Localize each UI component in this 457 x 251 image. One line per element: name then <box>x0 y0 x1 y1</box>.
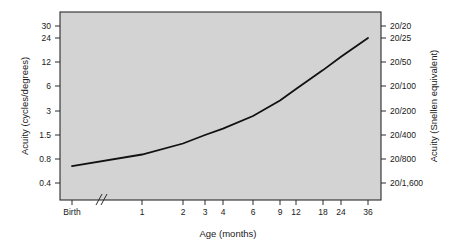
left-tick-label-12: 12 <box>42 57 52 67</box>
right-tick-label-20-1600: 20/1,600 <box>390 178 423 188</box>
x-tick-label-birth: Birth <box>63 207 81 217</box>
x-tick-label-4: 4 <box>221 207 226 217</box>
right-axis-tick-labels: 20/20 20/25 20/50 20/100 20/200 20/400 2… <box>390 21 423 188</box>
left-tick-label-6: 6 <box>46 81 51 91</box>
left-tick-label-30: 30 <box>42 21 52 31</box>
x-tick-label-12: 12 <box>291 207 301 217</box>
chart-svg: 30 24 12 6 3 1.5 0.8 0.4 Acuity (cycles/… <box>0 0 457 251</box>
left-axis-ticks <box>55 26 60 183</box>
x-tick-label-2: 2 <box>181 207 186 217</box>
x-tick-label-36: 36 <box>363 207 373 217</box>
left-tick-label-1-5: 1.5 <box>39 130 51 140</box>
bottom-axis-title: Age (months) <box>199 228 256 239</box>
acuity-development-chart: 30 24 12 6 3 1.5 0.8 0.4 Acuity (cycles/… <box>0 0 457 251</box>
x-tick-label-6: 6 <box>251 207 256 217</box>
x-tick-label-3: 3 <box>203 207 208 217</box>
left-axis-tick-labels: 30 24 12 6 3 1.5 0.8 0.4 <box>39 21 51 188</box>
left-axis-title: Acuity (cycles/degrees) <box>19 57 30 155</box>
right-axis-ticks <box>381 26 386 183</box>
bottom-axis-ticks <box>72 200 368 205</box>
right-tick-label-20-50: 20/50 <box>390 57 412 67</box>
right-tick-label-20-800: 20/800 <box>390 154 416 164</box>
left-tick-label-0-8: 0.8 <box>39 154 51 164</box>
right-tick-label-20-20: 20/20 <box>390 21 412 31</box>
right-tick-label-20-25: 20/25 <box>390 33 412 43</box>
right-tick-label-20-400: 20/400 <box>390 130 416 140</box>
right-tick-label-20-200: 20/200 <box>390 106 416 116</box>
left-tick-label-0-4: 0.4 <box>39 178 51 188</box>
left-tick-label-24: 24 <box>42 33 52 43</box>
x-tick-label-9: 9 <box>278 207 283 217</box>
right-axis-title: Acuity (Snellen equivalent) <box>428 50 439 162</box>
right-tick-label-20-100: 20/100 <box>390 81 416 91</box>
plot-area-background <box>60 12 381 200</box>
x-tick-label-24: 24 <box>336 207 346 217</box>
bottom-axis-tick-labels: Birth 1 2 3 4 6 9 12 18 24 36 <box>63 207 373 217</box>
left-tick-label-3: 3 <box>46 106 51 116</box>
x-tick-label-18: 18 <box>318 207 328 217</box>
x-tick-label-1: 1 <box>140 207 145 217</box>
